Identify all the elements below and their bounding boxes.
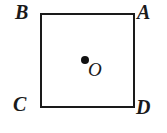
vertex-label-a: A (137, 2, 150, 22)
vertex-label-d: D (136, 97, 150, 117)
geometry-figure: B A C D O (0, 0, 167, 133)
center-label-o: O (88, 60, 102, 79)
vertex-label-c: C (13, 94, 26, 114)
vertex-label-b: B (15, 2, 28, 22)
